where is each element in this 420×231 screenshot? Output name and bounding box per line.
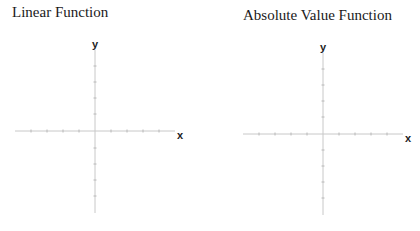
coordinate-planes: y x y x: [0, 0, 420, 231]
x-axis-label: x: [405, 132, 412, 144]
absolute-value-function-plane: y x: [243, 41, 412, 215]
linear-function-plane: y x: [15, 38, 184, 213]
y-axis-label: y: [320, 41, 327, 53]
y-axis-label: y: [92, 38, 99, 50]
x-axis-label: x: [177, 129, 184, 141]
